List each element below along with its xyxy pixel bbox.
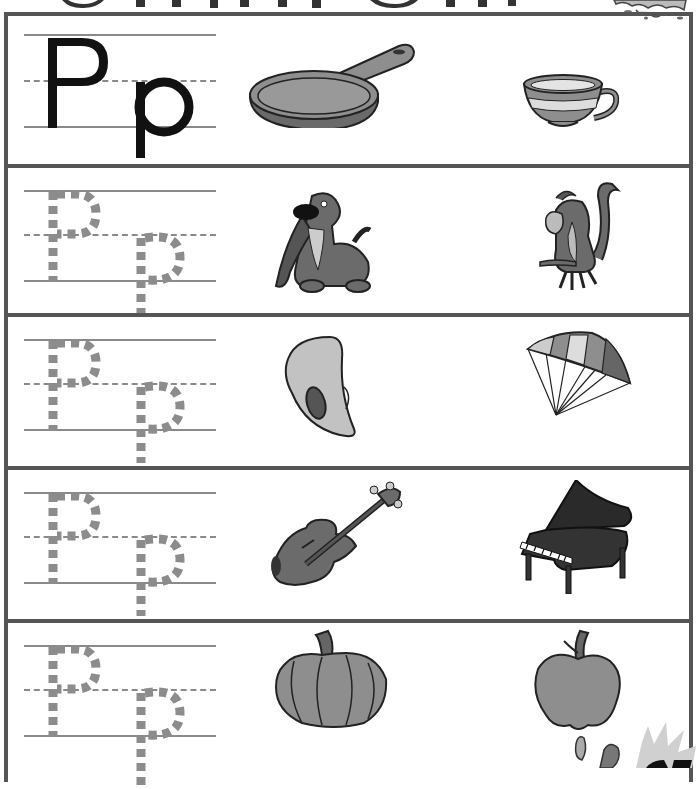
teacup-picture [522, 74, 622, 136]
handwriting-guide [24, 190, 216, 315]
handwriting-guide [24, 645, 216, 785]
dotted-letters-pp [24, 645, 216, 785]
paint-palette-picture [280, 335, 366, 445]
handwriting-guide [24, 492, 216, 617]
row-trace-3 [8, 466, 689, 623]
dog-picture [272, 186, 382, 298]
dotted-letters-pp [24, 190, 216, 315]
dotted-letters-pp [24, 492, 216, 617]
solid-letter-upper-p [48, 38, 108, 128]
frying-pan-picture [244, 38, 419, 132]
row-trace-1 [8, 164, 689, 317]
worksheet-frame [4, 12, 693, 782]
dotted-letters-pp [24, 339, 216, 464]
handwriting-guide [24, 34, 216, 154]
parachute-picture [526, 329, 636, 423]
solid-letter-lower-p [136, 82, 189, 158]
pumpkin-picture [272, 629, 392, 733]
monkey-picture [536, 176, 624, 300]
row-trace-2 [8, 313, 689, 470]
page-number-badge [556, 720, 696, 768]
handwriting-guide [24, 339, 216, 464]
piano-picture [516, 480, 636, 598]
row-model [8, 16, 689, 164]
violin-picture [266, 478, 406, 602]
